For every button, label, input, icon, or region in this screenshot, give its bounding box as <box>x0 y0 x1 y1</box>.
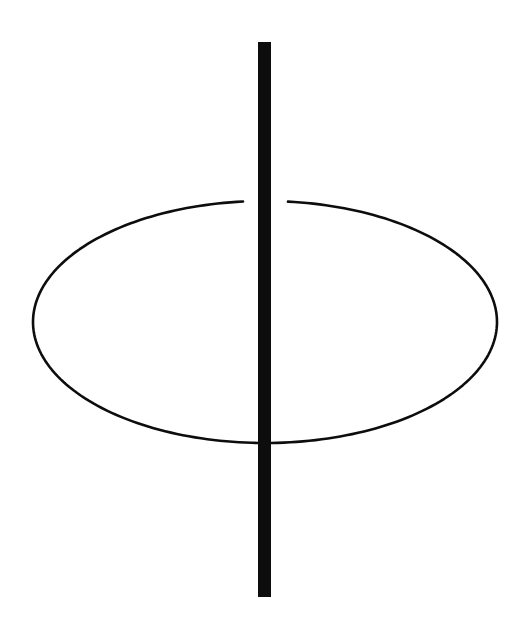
figure-canvas: Phi symbol line drawing A hand-drawn wid… <box>0 0 529 626</box>
phi-symbol-drawing: Phi symbol line drawing A hand-drawn wid… <box>0 0 529 626</box>
